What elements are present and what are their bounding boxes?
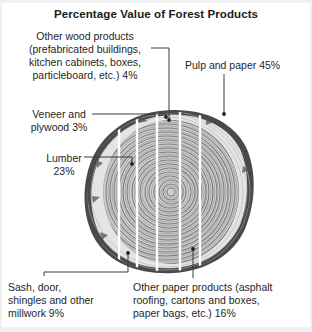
leader-sash [44, 254, 128, 276]
leader-arrowheads [126, 112, 226, 255]
forest-products-infographic: Percentage Value of Forest Products [0, 0, 312, 332]
label-pulp-and-paper: Pulp and paper 45% [185, 59, 305, 72]
label-sash-door-shingles-millwork: Sash, door, shingles and other millwork … [8, 281, 126, 320]
label-lumber: Lumber 23% [14, 152, 114, 178]
label-veneer-and-plywood: Veneer and plywood 3% [4, 108, 114, 134]
label-other-paper-products: Other paper products (asphalt roofing, c… [133, 281, 308, 320]
label-other-wood-products: Other wood products (prefabricated build… [6, 30, 164, 82]
